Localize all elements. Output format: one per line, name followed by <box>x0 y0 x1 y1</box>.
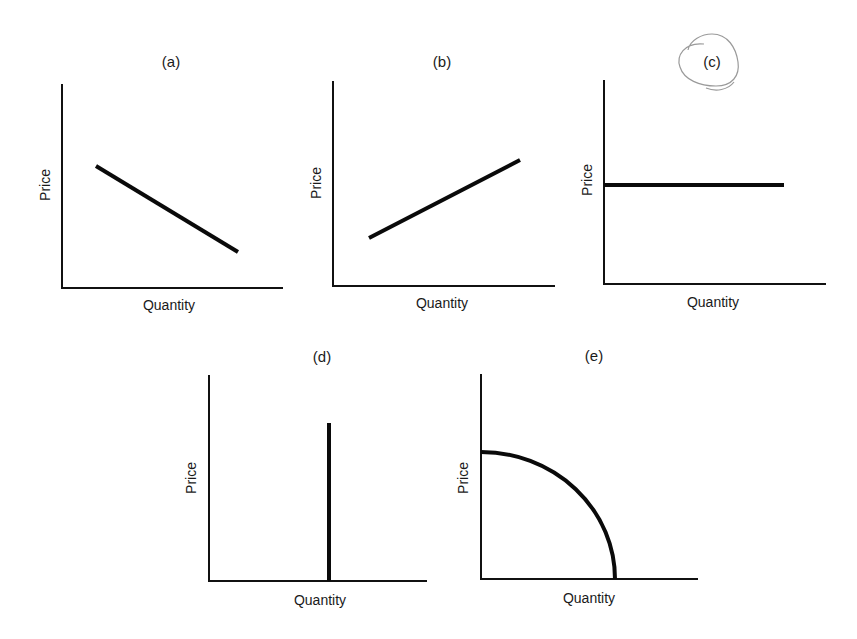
panel-c-axes <box>604 80 826 284</box>
figure-canvas: (a) Price Quantity (b) Price Quantity (c… <box>0 0 857 639</box>
panel-b-ylabel: Price <box>308 167 324 199</box>
panel-d-title: (d) <box>313 348 331 365</box>
panel-c-ylabel: Price <box>579 164 595 196</box>
panel-c: (c) Price Quantity <box>579 34 826 310</box>
panel-e-ylabel: Price <box>455 462 471 494</box>
panel-a: (a) Price Quantity <box>37 53 283 313</box>
panel-e: (e) Price Quantity <box>455 347 698 606</box>
panel-e-title: (e) <box>585 347 603 364</box>
panel-b: (b) Price Quantity <box>308 53 555 311</box>
panel-b-supply-line <box>369 160 520 238</box>
panel-a-xlabel: Quantity <box>143 297 195 313</box>
panel-a-ylabel: Price <box>37 169 53 201</box>
panel-e-xlabel: Quantity <box>563 590 615 606</box>
panel-b-axes <box>333 81 555 286</box>
panel-e-axes <box>481 374 698 579</box>
panel-d-xlabel: Quantity <box>294 592 346 608</box>
panel-d-axes <box>209 375 427 581</box>
panel-d-ylabel: Price <box>183 462 199 494</box>
panel-d: (d) Price Quantity <box>183 348 427 608</box>
panel-e-concave-curve <box>481 452 615 579</box>
panel-c-xlabel: Quantity <box>687 294 739 310</box>
panel-c-title: (c) <box>703 53 721 70</box>
panel-a-demand-line <box>96 166 238 252</box>
panel-a-axes <box>62 84 283 288</box>
panel-b-title: (b) <box>433 53 451 70</box>
panel-b-xlabel: Quantity <box>416 295 468 311</box>
panel-a-title: (a) <box>162 53 180 70</box>
